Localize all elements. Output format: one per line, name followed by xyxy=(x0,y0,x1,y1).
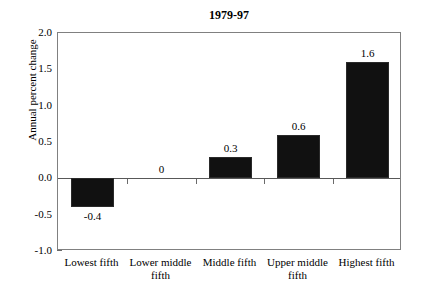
y-tick-label: 1.0 xyxy=(12,100,52,110)
y-tick-label: -1.0 xyxy=(12,245,52,255)
bar-value-label: -0.4 xyxy=(59,210,126,222)
x-tick-mark xyxy=(196,179,197,184)
bar-chart: 1979-97 Annual percent change 2.01.51.00… xyxy=(0,0,423,294)
y-tick-label: 0.0 xyxy=(12,172,52,182)
bar-value-label: 0 xyxy=(128,163,195,175)
x-axis-category-label-line: Lower middle xyxy=(126,256,195,269)
y-tick-label: 2.0 xyxy=(12,27,52,37)
bar-value-label: 0.6 xyxy=(265,120,332,132)
x-axis-category-label-line: fifth xyxy=(126,269,195,282)
plot-area: -0.400.30.61.6 xyxy=(57,32,401,250)
x-axis-category-label-line: Middle fifth xyxy=(195,256,264,269)
x-axis-category-label-line: Highest fifth xyxy=(332,256,401,269)
bar-value-label: 0.3 xyxy=(197,142,264,154)
x-tick-mark xyxy=(333,179,334,184)
y-axis-ticks: 2.01.51.00.50.0-0.5-1.0 xyxy=(8,32,52,250)
x-axis-category-label-line: fifth xyxy=(263,269,332,282)
bar xyxy=(346,62,389,178)
x-axis-category-label: Lower middlefifth xyxy=(126,256,195,282)
x-tick-mark xyxy=(127,179,128,184)
bar xyxy=(209,157,252,179)
x-axis-category-label: Highest fifth xyxy=(332,256,401,269)
x-axis-category-label: Lowest fifth xyxy=(57,256,126,269)
x-axis-category-label-line: Lowest fifth xyxy=(57,256,126,269)
bar xyxy=(277,135,320,179)
x-axis-labels: Lowest fifthLower middlefifthMiddle fift… xyxy=(57,256,401,294)
x-axis-category-label: Middle fifth xyxy=(195,256,264,269)
y-tick-label: 1.5 xyxy=(12,63,52,73)
x-tick-mark xyxy=(264,179,265,184)
y-tick-label: -0.5 xyxy=(12,209,52,219)
bar xyxy=(71,178,114,207)
bar-value-label: 1.6 xyxy=(334,47,401,59)
x-axis-category-label-line: Upper middle xyxy=(263,256,332,269)
chart-title: 1979-97 xyxy=(57,8,401,23)
y-tick-label: 0.5 xyxy=(12,136,52,146)
y-tick-mark xyxy=(57,250,62,251)
x-axis-category-label: Upper middlefifth xyxy=(263,256,332,282)
